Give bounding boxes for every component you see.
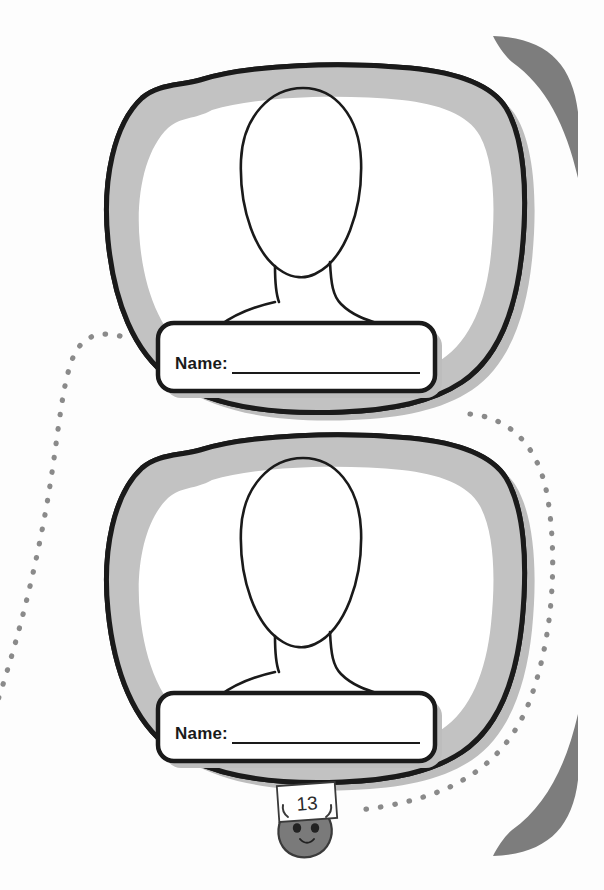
portrait-frame-2[interactable]: Name: <box>106 435 534 791</box>
mascot-eye-left <box>293 823 301 833</box>
name-label-1: Name: <box>175 354 228 373</box>
worksheet-page: Name: Name: <box>0 0 604 890</box>
name-label-2: Name: <box>175 724 228 743</box>
pebble-mascot-icon: 13 <box>277 782 337 857</box>
page-canvas: Name: Name: <box>0 0 604 890</box>
page-number-label: 13 <box>296 792 319 814</box>
portrait-frame-1[interactable]: Name: <box>106 65 534 421</box>
mascot-eye-right <box>311 823 319 833</box>
